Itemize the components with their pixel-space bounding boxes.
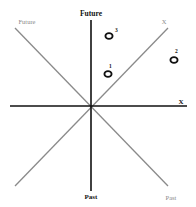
cone-future-label: Future: [19, 18, 36, 25]
spacetime-diagram: Future Past X Future X Past 3 1 2: [0, 0, 196, 207]
event-circle-icon: [170, 57, 177, 63]
time-axis-past-label: Past: [85, 193, 99, 201]
event-label: 2: [175, 48, 178, 54]
space-axis-label: X: [178, 98, 183, 106]
time-axis-future-label: Future: [80, 9, 103, 18]
event-label: 3: [115, 27, 118, 33]
event-circle-icon: [104, 71, 111, 77]
event-1: 1: [104, 63, 112, 77]
cone-x-label: X: [162, 18, 167, 25]
event-2: 2: [170, 48, 178, 63]
event-circle-icon: [105, 33, 112, 39]
event-3: 3: [105, 27, 118, 39]
event-label: 1: [109, 63, 112, 69]
cone-past-label: Past: [166, 194, 177, 201]
